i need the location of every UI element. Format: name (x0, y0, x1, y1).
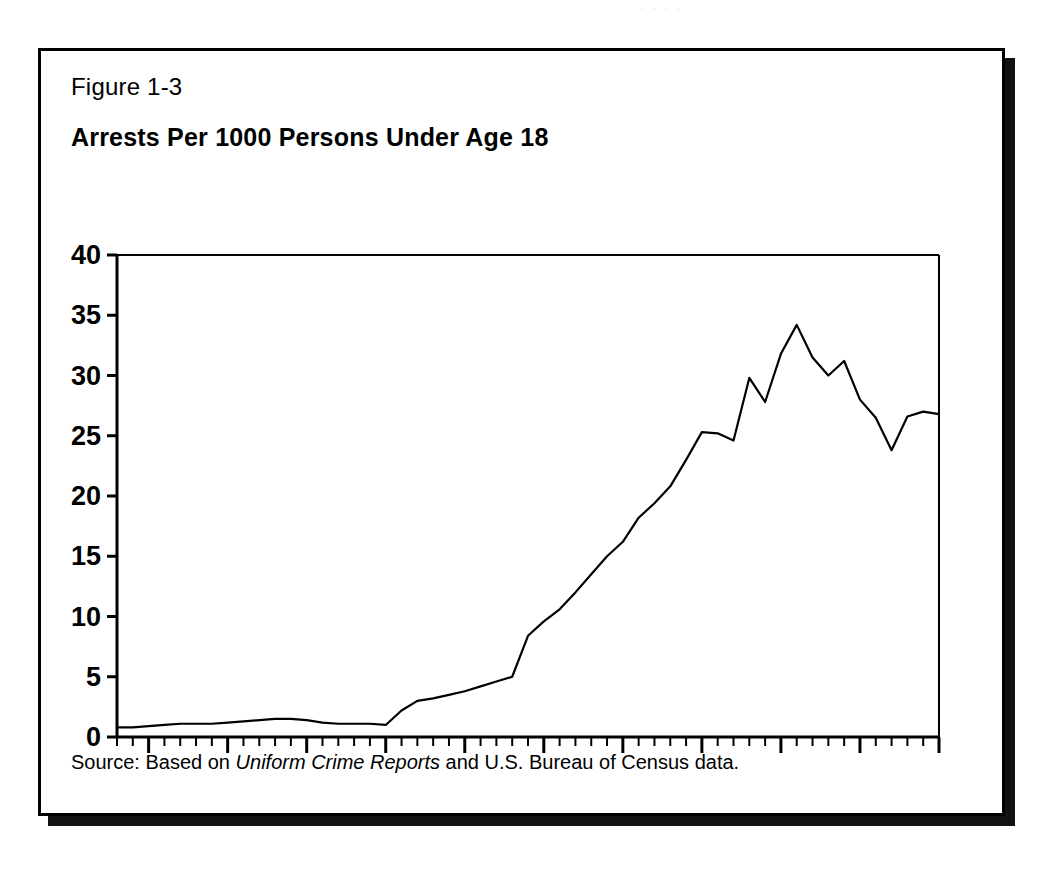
y-axis-tick-labels: 0510152025303540 (71, 240, 101, 752)
source-prefix: Source: Based on (71, 751, 236, 773)
y-tick-label: 15 (71, 541, 101, 571)
y-tick-label: 40 (71, 240, 101, 270)
source-note: Source: Based on Uniform Crime Reports a… (71, 751, 739, 774)
figure-title: Arrests Per 1000 Persons Under Age 18 (71, 123, 549, 152)
line-chart-svg: 0510152025303540 19351940194519501955196… (41, 191, 1002, 761)
data-series-line (117, 325, 939, 727)
scan-artifact: · · · · (640, 0, 1040, 14)
y-tick-label: 25 (71, 421, 101, 451)
source-italic-title: Uniform Crime Reports (236, 751, 440, 773)
figure-box: Figure 1-3 Arrests Per 1000 Persons Unde… (38, 48, 1005, 816)
y-tick-label: 10 (71, 602, 101, 632)
chart-plot-area: 0510152025303540 19351940194519501955196… (41, 191, 1002, 761)
y-tick-label: 30 (71, 361, 101, 391)
source-suffix: and U.S. Bureau of Census data. (440, 751, 739, 773)
plot-frame (117, 255, 939, 737)
y-tick-label: 35 (71, 300, 101, 330)
y-tick-label: 5 (86, 662, 101, 692)
y-tick-label: 20 (71, 481, 101, 511)
figure-label: Figure 1-3 (71, 73, 182, 101)
y-tick-label: 0 (86, 722, 101, 752)
